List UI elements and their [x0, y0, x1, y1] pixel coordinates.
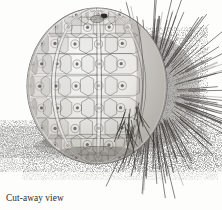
urchin-illustration-figure: Cut-away view showing urchin's test — [0, 0, 222, 210]
urchin-drawing — [0, 0, 222, 210]
figure-caption: Cut-away view showing urchin's test — [6, 182, 156, 210]
caption-line-1: Cut-away view — [6, 193, 156, 204]
